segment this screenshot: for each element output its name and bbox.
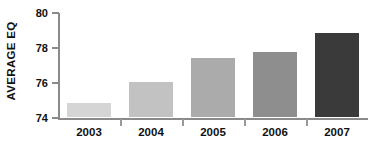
bar-2006 (252, 51, 298, 118)
y-tick-label: 78 (14, 42, 48, 54)
x-axis-baseline (58, 118, 368, 120)
y-tick-label: 80 (14, 7, 48, 19)
x-tick-mark (182, 119, 184, 126)
x-label-2007: 2007 (306, 126, 368, 138)
y-tick-label: 74 (14, 112, 48, 124)
bar-2003 (66, 102, 112, 118)
x-axis-labels: 20032004200520062007 (58, 126, 368, 144)
bar-2007 (314, 32, 360, 118)
x-label-2004: 2004 (120, 126, 182, 138)
x-label-2005: 2005 (182, 126, 244, 138)
x-tick-mark (306, 119, 308, 126)
y-tick-label: 76 (14, 77, 48, 89)
bar-chart: AVERAGE EQ 74767880 20032004200520062007 (0, 0, 373, 146)
bar-2005 (190, 57, 236, 118)
bars-layer (58, 13, 368, 118)
x-tick-mark (120, 119, 122, 126)
bar-2004 (128, 81, 174, 118)
x-tick-mark (244, 119, 246, 126)
x-label-2003: 2003 (58, 126, 120, 138)
x-label-2006: 2006 (244, 126, 306, 138)
